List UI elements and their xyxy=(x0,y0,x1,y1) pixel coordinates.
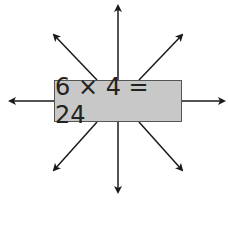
arrow-down-right xyxy=(139,122,182,170)
equation-box: 6 × 4 = 24 xyxy=(54,80,182,122)
arrow-down-left xyxy=(54,122,97,170)
equation-text: 6 × 4 = 24 xyxy=(55,73,181,129)
